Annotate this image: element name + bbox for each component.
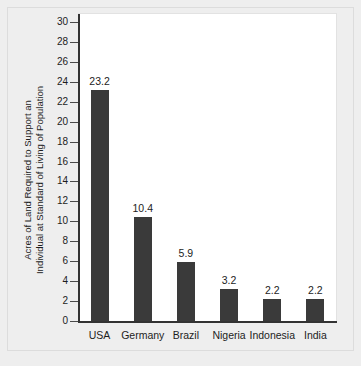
bar (263, 299, 281, 321)
chart-page: 024681012141618202224262830 Acres of Lan… (0, 0, 361, 366)
y-axis-tick (70, 201, 78, 202)
y-axis-tick (70, 22, 78, 23)
y-axis-tick (70, 221, 78, 222)
y-axis-tick (70, 102, 78, 103)
y-axis-tick (70, 162, 78, 163)
y-axis-tick-label: 0 (14, 316, 68, 326)
y-axis-title-line-2: Individual at Standard of Living of Popu… (34, 45, 46, 315)
bar-value-label: 2.2 (285, 285, 345, 296)
x-axis-line (78, 321, 337, 323)
bar (220, 289, 238, 321)
bar (91, 90, 109, 321)
y-axis-tick (70, 181, 78, 182)
bar (177, 262, 195, 321)
y-axis-tick (70, 142, 78, 143)
y-axis-tick (70, 261, 78, 262)
bar-value-label: 5.9 (156, 248, 216, 259)
y-axis-tick (70, 122, 78, 123)
bar-value-label: 10.4 (113, 203, 173, 214)
y-axis-title: Acres of Land Required to Support an Ind… (22, 45, 46, 315)
y-axis-tick (70, 241, 78, 242)
y-axis-tick (70, 301, 78, 302)
bar (134, 217, 152, 321)
bar (306, 299, 324, 321)
y-axis-tick-label: 30 (14, 17, 68, 27)
y-axis-tick (70, 281, 78, 282)
y-axis-tick (70, 62, 78, 63)
x-axis-category-label: India (281, 330, 349, 341)
bar-value-label: 23.2 (70, 76, 130, 87)
y-axis-tick (70, 42, 78, 43)
bar-value-label: 3.2 (199, 275, 259, 286)
y-axis-tick (70, 321, 78, 322)
y-axis-title-line-1: Acres of Land Required to Support an (22, 45, 34, 315)
